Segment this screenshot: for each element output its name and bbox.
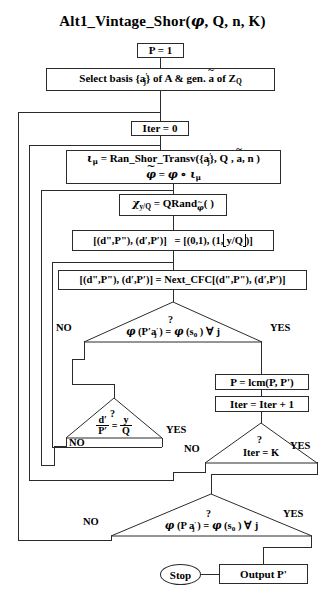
node-init-p-label: P = 1: [149, 44, 172, 56]
node-output[interactable]: Output P': [219, 564, 308, 584]
edge-frac-no-down: [66, 438, 67, 446]
decision-phi-pprime-label: φ (P′a′j ) = φ (s0 ) ∀ j: [84, 325, 262, 339]
title-args: , Q, n, K: [204, 13, 260, 29]
edge-phipprime-no-right: [72, 384, 114, 385]
node-qrand[interactable]: χy/Q = QRandφ( ): [119, 194, 227, 216]
edge-frac-no-down2: [54, 446, 55, 465]
edge-nextcfc-down: [173, 290, 174, 302]
page-title: Alt1_Vintage_Shor(φ, Q, n, K): [0, 12, 325, 30]
decision-frac-yes: YES: [166, 424, 186, 435]
decision-iter-k-no: NO: [184, 443, 200, 454]
loop-4-left-rail: [52, 262, 53, 447]
edge-phipprime-no-down3: [114, 384, 115, 398]
node-ran-shor-line2: φ = φ ∘ ιμ: [146, 168, 201, 182]
node-cfc-init-label: [(d",P"), (d′,P′)] = [(0,1), (1,y/Q)]: [93, 235, 253, 247]
edge-iterk-yes-down: [317, 462, 318, 474]
edge-output-to-stop: [200, 574, 220, 575]
loop-3-top-rail: [41, 190, 173, 191]
edge-frac-no-to-rail3: [41, 465, 55, 466]
node-init-p[interactable]: P = 1: [137, 43, 184, 58]
edge-phip-yes-left: [263, 547, 312, 548]
loop-outer-top-rail: [18, 112, 160, 113]
node-lcm-label: P = lcm(P, P'): [230, 376, 293, 388]
decision-phi-p[interactable]: ? φ (P a′j ) = φ (s0 ) ∀ j: [111, 494, 312, 539]
title-name: Alt1_Vintage_Shor(: [59, 13, 190, 29]
loop-outer-left-rail: [18, 112, 19, 540]
edge-phipprime-no-down: [84, 341, 85, 359]
decision-iter-k-question: ?: [257, 434, 262, 445]
edge-selectbasis-down: [160, 91, 161, 112]
title-close: ): [260, 13, 265, 29]
decision-frac-label: d′P′ = yQ: [66, 416, 162, 437]
node-iter-inc[interactable]: Iter = Iter + 1: [215, 396, 309, 412]
edge-iterinc-down: [261, 412, 262, 423]
edge-frac-yes-down: [162, 438, 163, 447]
edge-iterk-no-left: [173, 472, 206, 473]
edge-frac-no-left: [54, 446, 67, 447]
node-output-label: Output P': [240, 568, 287, 580]
decision-phi-pprime[interactable]: ? φ (P′a′j ) = φ (s0 ) ∀ j: [84, 302, 262, 344]
decision-phi-pprime-no: NO: [56, 322, 72, 333]
loop-3-left-rail: [41, 190, 42, 465]
edge-down-to-nextcfc: [173, 262, 174, 270]
decision-frac-check[interactable]: ? d′P′ = yQ: [66, 398, 162, 440]
decision-frac-no: NO: [69, 437, 85, 448]
node-cfc-init[interactable]: [(d",P"), (d′,P′)] = [(0,1), (1,y/Q)]: [72, 230, 274, 251]
decision-phi-p-no: NO: [83, 516, 99, 527]
node-iter-zero-label: Iter = 0: [143, 122, 178, 134]
decision-iter-k-yes: YES: [290, 440, 310, 451]
edge-cfcinit-down: [173, 251, 174, 262]
node-next-cfc-label: [(d",P"), (d′,P′)] = Next_CFC[(d",P"), (…: [79, 274, 285, 286]
decision-phi-pprime-yes: YES: [270, 322, 290, 333]
node-lcm[interactable]: P = lcm(P, P'): [215, 374, 309, 390]
decision-phi-p-label: φ (P a′j ) = φ (s0 ) ∀ j: [111, 519, 312, 533]
edge-phip-yes-down: [311, 536, 312, 547]
decision-phi-p-question: ?: [206, 508, 211, 519]
edge-iterk-yes-down2: [211, 474, 212, 494]
edge-iterk-yes-left: [211, 474, 318, 475]
node-iter-inc-label: Iter = Iter + 1: [230, 398, 294, 410]
node-next-cfc[interactable]: [(d",P"), (d′,P′)] = Next_CFC[(d",P"), (…: [58, 270, 307, 290]
node-stop-label: Stop: [170, 569, 191, 581]
node-stop[interactable]: Stop: [160, 564, 201, 585]
edge-phipprime-no-left: [72, 359, 85, 360]
loop-4-top-rail: [52, 262, 173, 263]
decision-phi-pprime-question: ?: [168, 314, 173, 325]
flowchart-canvas: Alt1_Vintage_Shor(φ, Q, n, K) P = 1 Sele…: [0, 0, 325, 608]
node-ran-shor-line1: ιμ = Ran_Shor_Transv({a′j}, Q , a, n ): [87, 152, 260, 166]
edge-qrand-down: [173, 216, 174, 230]
edge-phip-no-left: [18, 540, 112, 541]
node-select-basis-label: Select basis {a′j} of A & gen. a of ZQ: [79, 72, 241, 86]
edge-down-to-iter0: [160, 112, 161, 121]
edge-phipprime-yes-down: [261, 341, 262, 374]
edge-phip-yes-down2: [263, 547, 264, 564]
node-qrand-label: χy/Q = QRandφ( ): [132, 197, 214, 213]
edge-phipprime-no-down2: [72, 359, 73, 384]
node-ran-shor-transv[interactable]: ιμ = Ran_Shor_Transv({a′j}, Q , a, n ) φ…: [66, 150, 281, 184]
node-select-basis[interactable]: Select basis {a′j} of A & gen. a of ZQ: [46, 68, 275, 91]
node-iter-zero[interactable]: Iter = 0: [131, 121, 189, 136]
edge-iterk-no-down2: [173, 472, 174, 480]
edge-initp-to-selectbasis: [160, 58, 161, 68]
edge-iter0-down: [160, 136, 161, 145]
loop-2-top-rail: [29, 145, 160, 146]
decision-phi-p-yes: YES: [283, 508, 303, 519]
edge-iterk-no-rail2: [29, 480, 174, 481]
loop-2-left-rail: [29, 145, 30, 480]
edge-iterk-no-down: [205, 462, 206, 472]
